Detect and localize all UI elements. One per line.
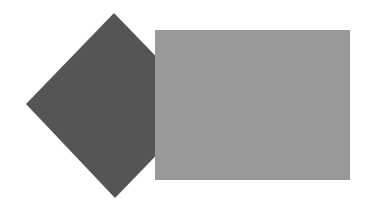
diagram-canvas [0, 0, 369, 212]
gray-rectangle-shape [155, 30, 350, 180]
